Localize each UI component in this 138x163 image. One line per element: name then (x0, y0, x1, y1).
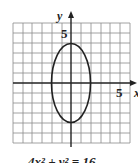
y-tick-5: 5 (61, 27, 68, 40)
y-axis-label: y (57, 10, 62, 22)
coordinate-plane (0, 0, 138, 163)
axes (13, 14, 134, 147)
y-axis-arrow (68, 11, 74, 18)
x-tick-5: 5 (116, 86, 123, 99)
x-axis-label: x (134, 87, 138, 99)
equation-caption: 4x² + y² = 16 (28, 155, 95, 163)
